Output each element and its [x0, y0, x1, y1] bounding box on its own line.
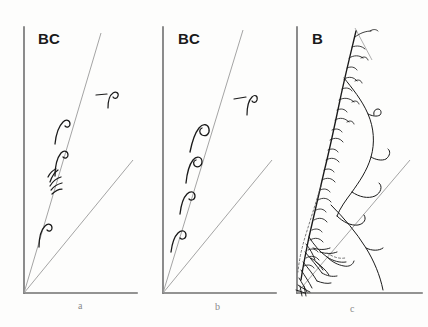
panel-b-side-symbol [234, 96, 257, 115]
panel-c-lobe-outline [337, 78, 390, 225]
panel-b-treatment-label: BC [178, 30, 200, 47]
panel-c-treatment-label: B [312, 30, 323, 47]
panel-b-crozier-marks [171, 125, 209, 252]
panel-a-rays [24, 33, 133, 293]
panel-a-crozier-marks [39, 120, 70, 247]
panel-b-letter: b [215, 301, 220, 312]
panel-a-axes [24, 27, 137, 293]
panel-c-axes [297, 27, 422, 293]
panel-a-side-symbol [96, 92, 118, 108]
panel-c-branchlets [304, 30, 378, 269]
panel-c-letter: c [350, 303, 354, 314]
panel-c-drawing [283, 0, 428, 327]
panel-b [143, 0, 283, 327]
figure-canvas: BC BC B a b c [0, 0, 428, 327]
panel-c [283, 0, 428, 327]
panel-a-drawing [0, 0, 143, 327]
panel-a-letter: a [78, 300, 82, 311]
panel-c-main-stem [301, 31, 356, 280]
panel-b-axes [163, 27, 276, 293]
panel-b-drawing [143, 0, 283, 327]
panel-c-rays [297, 28, 410, 293]
panel-a [0, 0, 143, 327]
panel-b-rays [163, 30, 272, 293]
panel-a-treatment-label: BC [38, 30, 60, 47]
